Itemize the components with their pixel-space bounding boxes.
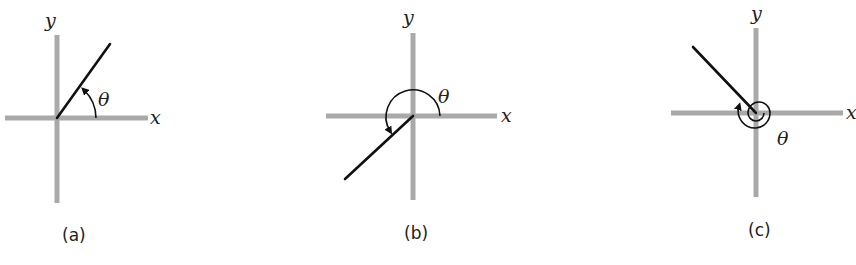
angle-label: θ: [438, 85, 450, 107]
panel-a: θ x y (a): [5, 9, 161, 245]
panel-caption: (a): [62, 225, 86, 245]
panel-caption: (b): [404, 223, 428, 243]
x-axis-label: x: [150, 106, 161, 128]
angle-figure: θ x y (a) θ x y (b) θ x y (c): [0, 0, 856, 265]
x-axis-label: x: [846, 101, 856, 123]
x-axis-label: x: [501, 104, 512, 126]
y-axis-label: y: [750, 2, 762, 24]
y-axis-label: y: [44, 9, 56, 31]
angle-label: θ: [777, 127, 789, 149]
panel-b: θ x y (b): [326, 6, 512, 243]
angle-label: θ: [98, 88, 110, 110]
y-axis-label: y: [402, 6, 414, 28]
angle-arc-arrow-icon: [84, 90, 96, 118]
terminal-ray: [693, 47, 756, 113]
terminal-ray: [345, 116, 413, 179]
panel-c: θ x y (c): [671, 2, 856, 240]
panel-caption: (c): [748, 220, 771, 240]
